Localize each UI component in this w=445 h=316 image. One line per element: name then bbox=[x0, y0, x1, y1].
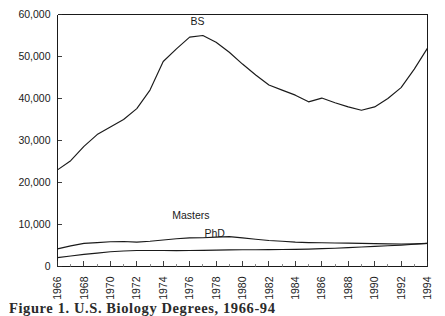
y-axis-tick-label: 40,000 bbox=[18, 92, 50, 104]
x-axis-tick-label: 1970 bbox=[104, 276, 116, 300]
x-axis-tick-label: 1966 bbox=[51, 276, 63, 300]
x-axis-tick-label: 1976 bbox=[183, 276, 195, 300]
y-axis-tick-label: 10,000 bbox=[18, 218, 50, 230]
x-axis-tick-label: 1988 bbox=[342, 276, 354, 300]
series-label-masters: Masters bbox=[172, 209, 209, 221]
series-label-phd: PhD bbox=[205, 227, 226, 239]
y-axis-tick-label: 60,000 bbox=[18, 8, 50, 20]
x-axis-tick-label: 1972 bbox=[130, 276, 142, 300]
series-line-phd bbox=[58, 243, 428, 257]
x-axis-tick-label: 1974 bbox=[157, 276, 169, 300]
x-axis-tick-label: 1994 bbox=[421, 276, 433, 300]
y-axis-tick-label: 20,000 bbox=[18, 176, 50, 188]
figure-caption: Figure 1. U.S. Biology Degrees, 1966-94 bbox=[9, 300, 445, 316]
x-axis-tick-label: 1968 bbox=[78, 276, 90, 300]
line-chart: 010,00020,00030,00040,00050,00060,000196… bbox=[0, 0, 445, 316]
x-axis-tick-label: 1982 bbox=[263, 276, 275, 300]
x-axis-tick-label: 1986 bbox=[315, 276, 327, 300]
figure-container: 010,00020,00030,00040,00050,00060,000196… bbox=[0, 0, 445, 316]
x-axis-tick-label: 1978 bbox=[210, 276, 222, 300]
x-axis-tick-label: 1984 bbox=[289, 276, 301, 300]
y-axis-tick-label: 50,000 bbox=[18, 50, 50, 62]
x-axis-tick-label: 1980 bbox=[236, 276, 248, 300]
series-label-bs: BS bbox=[191, 15, 205, 27]
y-axis-tick-label: 30,000 bbox=[18, 134, 50, 146]
x-axis-tick-label: 1990 bbox=[368, 276, 380, 300]
y-axis-tick-label: 0 bbox=[45, 260, 51, 272]
series-line-bs bbox=[58, 36, 428, 170]
x-axis-tick-label: 1992 bbox=[395, 276, 407, 300]
